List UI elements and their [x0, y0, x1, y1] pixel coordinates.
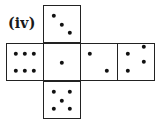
- pip-dot: [68, 31, 72, 35]
- die-face-top: [43, 5, 81, 43]
- die-face-left: [6, 43, 44, 81]
- pip-dot: [126, 52, 130, 56]
- pip-dot: [23, 52, 27, 56]
- pip-dot: [142, 60, 146, 64]
- die-face-center: [43, 43, 81, 81]
- pip-dot: [68, 107, 72, 111]
- pip-dot: [60, 99, 64, 103]
- pip-dot: [60, 23, 64, 27]
- pip-dot: [23, 69, 27, 73]
- pip-dot: [14, 52, 18, 56]
- die-face-right: [80, 43, 118, 81]
- pip-dot: [52, 14, 56, 18]
- die-face-far-right: [117, 43, 155, 81]
- pip-dot: [14, 69, 18, 73]
- pip-dot: [32, 69, 36, 73]
- pip-dot: [105, 69, 109, 73]
- pip-dot: [88, 52, 92, 56]
- pip-dot: [68, 90, 72, 94]
- figure-label: (iv): [8, 15, 36, 31]
- pip-dot: [60, 61, 64, 65]
- pip-dot: [142, 45, 146, 49]
- pip-dot: [32, 52, 36, 56]
- die-face-bottom: [43, 81, 81, 119]
- pip-dot: [126, 69, 130, 73]
- pip-dot: [52, 107, 56, 111]
- pip-dot: [52, 90, 56, 94]
